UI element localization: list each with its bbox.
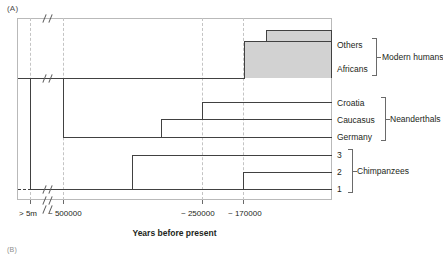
axis-break-below-1 <box>42 205 46 214</box>
chimp1-line <box>30 189 332 190</box>
taxon-label-others: Others <box>337 41 363 50</box>
tick-mark-500000 <box>63 200 64 204</box>
others-top-line <box>266 30 332 31</box>
chimp2-line <box>243 172 332 173</box>
taxon-label-germany: Germany <box>337 133 372 142</box>
taxon-label-chimp-1: 1 <box>337 185 342 194</box>
africans-stem <box>18 78 245 79</box>
others-branch-line <box>244 41 332 42</box>
tick-mark-5m <box>30 200 31 204</box>
neanderthal-modern-riser <box>63 78 64 138</box>
tick-label-170000: ~ 170000 <box>228 210 262 218</box>
tick-label-5m: > 5m <box>19 210 37 218</box>
taxon-label-caucasus: Caucasus <box>337 116 375 125</box>
germany-line <box>63 137 332 138</box>
tick-mark-250000 <box>202 200 203 204</box>
group-label-neanderthals: Neanderthals <box>390 115 441 124</box>
group-label-modern-humans: Modern humans <box>382 53 443 62</box>
tick-label-250000: ~ 250000 <box>181 210 215 218</box>
croatia-caucasus-riser <box>202 102 203 120</box>
croatia-line <box>202 102 332 103</box>
taxon-label-africans: Africans <box>337 65 368 74</box>
caucasus-line <box>161 119 332 120</box>
taxon-label-croatia: Croatia <box>337 99 364 108</box>
group-label-chimpanzees: Chimpanzees <box>357 167 409 176</box>
tick-label-500000: ~ 500000 <box>48 210 82 218</box>
chimp-hominin-riser <box>30 78 31 190</box>
x-axis-title: Years before present <box>17 228 332 238</box>
chimp3-riser <box>132 155 133 190</box>
taxon-label-chimp-3: 3 <box>337 151 342 160</box>
caucasus-germany-riser <box>161 119 162 138</box>
chimp2-riser <box>243 172 244 190</box>
chimp3-line <box>132 155 332 156</box>
modern-human-shaded-region-others <box>244 41 332 78</box>
bracket-nub-modern-humans <box>377 57 381 58</box>
africans-others-riser <box>244 41 245 79</box>
taxon-label-chimp-2: 2 <box>337 168 342 177</box>
tick-mark-170000 <box>243 200 244 204</box>
others-step-riser <box>266 30 267 42</box>
panel-a-tag: (A) <box>7 4 18 13</box>
panel-b-tag: (B) <box>7 246 17 253</box>
